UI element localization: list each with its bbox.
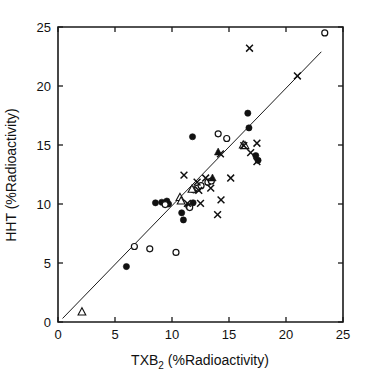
y-tick-label-5: 5 bbox=[44, 256, 51, 271]
data-markers bbox=[78, 30, 328, 315]
data-point-filled-circle-11 bbox=[246, 125, 252, 131]
data-point-open-triangle-0 bbox=[78, 308, 86, 315]
data-point-cross-14 bbox=[254, 140, 261, 147]
plot-canvas: 0510152025 0510152025 TXB2 (%Radioactivi… bbox=[0, 0, 365, 376]
data-point-cross-10 bbox=[227, 175, 234, 182]
data-point-cross-9 bbox=[218, 196, 225, 203]
data-point-filled-circle-0 bbox=[123, 263, 129, 269]
data-point-cross-12 bbox=[246, 45, 253, 52]
data-point-open-circle-1 bbox=[147, 246, 153, 252]
data-point-open-circle-10 bbox=[215, 131, 221, 137]
y-axis-title: HHT (%Radioactivity) bbox=[3, 108, 19, 242]
y-tick-label-0: 0 bbox=[44, 315, 51, 330]
data-point-cross-6 bbox=[207, 185, 214, 192]
data-point-open-circle-0 bbox=[131, 243, 137, 249]
axis-frame bbox=[58, 27, 343, 322]
data-point-cross-0 bbox=[181, 172, 188, 179]
y-tick-label-10: 10 bbox=[37, 197, 51, 212]
data-point-open-circle-2 bbox=[162, 202, 168, 208]
data-point-open-circle-11 bbox=[224, 136, 230, 142]
data-point-open-circle-12 bbox=[322, 30, 328, 36]
y-tick-label-15: 15 bbox=[37, 138, 51, 153]
data-point-open-circle-3 bbox=[173, 249, 179, 255]
y-tick-label-20: 20 bbox=[37, 79, 51, 94]
x-axis-tick-labels: 0510152025 bbox=[54, 327, 350, 342]
x-tick-label-20: 20 bbox=[279, 327, 293, 342]
y-axis-tick-labels: 0510152025 bbox=[37, 20, 51, 330]
x-axis-title: TXB2 (%Radioactivity) bbox=[131, 352, 269, 371]
plot-frame bbox=[58, 27, 343, 322]
data-point-filled-circle-5 bbox=[179, 210, 185, 216]
data-point-filled-triangle-0 bbox=[209, 174, 216, 181]
x-tick-label-5: 5 bbox=[111, 327, 118, 342]
data-point-cross-7 bbox=[214, 211, 221, 218]
y-axis-title-text: HHT (%Radioactivity) bbox=[3, 108, 19, 242]
x-tick-label-0: 0 bbox=[54, 327, 61, 342]
y-tick-label-25: 25 bbox=[37, 20, 51, 35]
x-tick-label-25: 25 bbox=[336, 327, 350, 342]
data-point-filled-circle-6 bbox=[180, 217, 186, 223]
x-axis-title-text: TXB2 (%Radioactivity) bbox=[131, 352, 269, 371]
data-point-cross-16 bbox=[294, 73, 301, 80]
x-tick-label-10: 10 bbox=[165, 327, 179, 342]
data-point-filled-circle-9 bbox=[189, 134, 195, 140]
scatter-plot-figure: 0510152025 0510152025 TXB2 (%Radioactivi… bbox=[0, 0, 365, 376]
data-point-cross-13 bbox=[247, 149, 254, 156]
data-point-filled-circle-10 bbox=[245, 110, 251, 116]
data-point-filled-circle-1 bbox=[152, 200, 158, 206]
x-axis-ticks bbox=[58, 27, 343, 322]
y-axis-ticks bbox=[58, 27, 343, 322]
x-tick-label-15: 15 bbox=[222, 327, 236, 342]
data-point-cross-4 bbox=[197, 200, 204, 207]
